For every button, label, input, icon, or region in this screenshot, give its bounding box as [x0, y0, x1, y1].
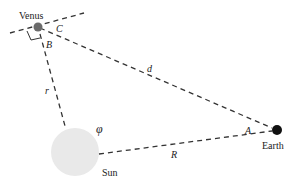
venus-label: Venus	[19, 11, 43, 21]
venus-dot	[34, 23, 43, 32]
distance-R-label: R	[171, 150, 177, 160]
venus-earth-sun-diagram: Venus Earth Sun C B d r φ R A	[0, 0, 299, 185]
line-d-venus-earth	[40, 28, 272, 128]
line-r-venus-sun	[40, 34, 65, 126]
sun-disk	[51, 128, 99, 176]
angle-a-label: A	[245, 126, 251, 136]
angle-c-label: C	[56, 24, 63, 34]
earth-dot	[272, 125, 282, 135]
angle-b-label: B	[46, 40, 52, 50]
distance-d-label: d	[147, 64, 152, 74]
distance-r-label: r	[45, 86, 49, 96]
angle-phi-label: φ	[96, 123, 103, 135]
sun-label: Sun	[102, 168, 118, 178]
earth-label: Earth	[262, 141, 284, 151]
right-angle-marker	[27, 31, 40, 40]
